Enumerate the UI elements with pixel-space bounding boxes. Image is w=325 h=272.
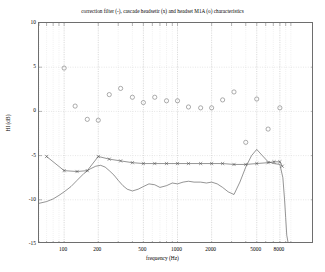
y-tick-label: -5: [12, 152, 36, 158]
x-tick-label: 200: [93, 246, 101, 252]
plot-area: [38, 22, 313, 243]
x-tick-label: 1000: [171, 246, 182, 252]
x-tick-label: 2000: [205, 246, 216, 252]
y-axis-tick-labels: -15-10-50510: [8, 0, 36, 272]
x-axis-label: frequency (Hz): [0, 255, 325, 261]
plot-svg: [39, 23, 313, 243]
y-tick-label: 5: [12, 63, 36, 69]
y-tick-label: -10: [12, 196, 36, 202]
y-tick-label: 0: [12, 107, 36, 113]
chart-title: correction filter (-), cascade headsetir…: [0, 8, 325, 14]
x-tick-label: 500: [138, 246, 146, 252]
y-tick-label: 10: [12, 19, 36, 25]
x-tick-label: 100: [59, 246, 67, 252]
x-tick-label: 5000: [250, 246, 261, 252]
figure-container: correction filter (-), cascade headsetir…: [0, 0, 325, 272]
x-tick-label: 8000: [273, 246, 284, 252]
